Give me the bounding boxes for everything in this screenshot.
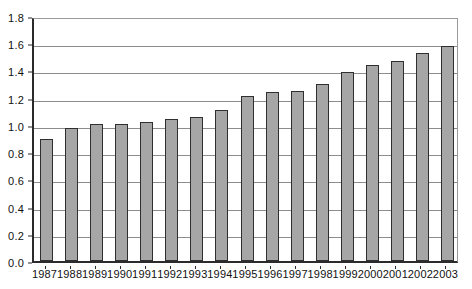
bar	[341, 72, 354, 261]
x-axis-tick-label: 2000	[358, 268, 383, 280]
y-axis-tick-label: 0.4	[8, 203, 24, 215]
bar	[40, 139, 53, 262]
x-axis: 1987198819891990199119921993199419951996…	[32, 266, 458, 289]
bar	[441, 46, 454, 261]
bar	[215, 110, 228, 261]
y-axis-tick-label: 0.2	[8, 230, 24, 242]
x-axis-tick-label: 1991	[132, 268, 157, 280]
y-axis-tick-label: 1.4	[8, 66, 24, 78]
plot-area	[32, 18, 458, 263]
x-axis-tick-label: 1990	[107, 268, 132, 280]
bar	[391, 61, 404, 261]
x-axis-tick-label: 1988	[57, 268, 82, 280]
y-axis-tick-label: 1.0	[8, 121, 24, 133]
bars-layer	[34, 19, 457, 261]
x-axis-tick-label: 1992	[157, 268, 182, 280]
y-axis-tick-label: 1.8	[8, 12, 24, 24]
x-axis-tick-label: 1993	[182, 268, 207, 280]
y-axis-tick-label: 0.0	[8, 257, 24, 269]
bar	[190, 117, 203, 261]
x-axis-tick-label: 2002	[408, 268, 433, 280]
x-axis-tick-label: 1995	[232, 268, 257, 280]
y-axis-tick-label: 1.2	[8, 94, 24, 106]
bar	[65, 128, 78, 261]
bar	[115, 124, 128, 261]
bar	[291, 91, 304, 261]
x-axis-tick-label: 1987	[32, 268, 57, 280]
bar	[241, 96, 254, 261]
bar	[316, 84, 329, 261]
bar	[165, 119, 178, 261]
x-axis-tick-label: 1996	[257, 268, 282, 280]
bar	[366, 65, 379, 261]
bar	[90, 124, 103, 261]
x-axis-tick-label: 1998	[308, 268, 333, 280]
bar	[416, 53, 429, 261]
y-axis-tick-label: 1.6	[8, 39, 24, 51]
y-axis-tick-label: 0.8	[8, 148, 24, 160]
x-axis-tick-label: 1994	[207, 268, 232, 280]
y-axis-tick-label: 0.6	[8, 175, 24, 187]
bar	[266, 92, 279, 261]
bar	[140, 122, 153, 261]
y-axis: 0.00.20.40.60.81.01.21.41.61.8	[0, 0, 32, 289]
x-axis-tick-label: 2001	[383, 268, 408, 280]
x-axis-tick-label: 1999	[333, 268, 358, 280]
x-axis-tick-label: 1997	[282, 268, 307, 280]
x-axis-tick-label: 1989	[82, 268, 107, 280]
bar-chart: 0.00.20.40.60.81.01.21.41.61.8 198719881…	[0, 0, 472, 289]
x-axis-tick-label: 2003	[433, 268, 458, 280]
